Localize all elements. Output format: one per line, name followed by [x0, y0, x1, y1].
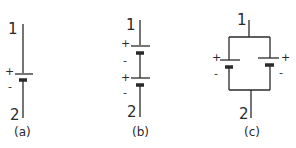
minus-sign-c-left: -	[214, 67, 218, 80]
terminal-label-2-a: 2	[10, 106, 20, 124]
terminal-label-1-a: 1	[8, 20, 18, 38]
caption-a: (a)	[14, 125, 31, 139]
terminal-label-1-c: 1	[237, 11, 247, 29]
terminal-label-2-c: 2	[239, 105, 249, 123]
plus-sign-c-left: +	[212, 51, 221, 64]
caption-c: (c)	[244, 125, 260, 139]
plus-sign-b2: +	[121, 71, 130, 84]
plus-sign-c-right: +	[281, 51, 290, 64]
minus-sign-b2: -	[123, 86, 127, 99]
minus-sign-c-right: -	[279, 66, 283, 79]
panel-c-parallel-cells: 1 + - + - 2 (c)	[212, 11, 290, 139]
panel-a-single-cell: 1 + - 2 (a)	[5, 20, 33, 139]
terminal-label-1-b: 1	[126, 16, 136, 34]
caption-b: (b)	[132, 125, 149, 139]
panel-b-series-cells: 1 + - + - 2 (b)	[121, 16, 150, 139]
plus-sign-a: +	[5, 65, 14, 78]
minus-sign-a: -	[8, 80, 12, 93]
plus-sign-b1: +	[121, 37, 130, 50]
circuit-diagram: 1 + - 2 (a) 1 + - + - 2 (b) 1 +	[0, 0, 296, 148]
minus-sign-b1: -	[123, 54, 127, 67]
terminal-label-2-b: 2	[127, 103, 137, 121]
